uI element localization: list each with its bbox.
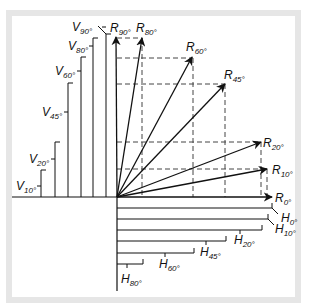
label-R45: R45° [224, 68, 246, 84]
v-component-V90 [102, 27, 111, 197]
label-V10: V10° [16, 179, 37, 195]
v-component-V20 [51, 142, 60, 197]
labels: R90°R80°R60°R45°R20°R10°R0°V10°V20°V45°V… [16, 20, 298, 288]
label-H20: H20° [234, 233, 256, 249]
label-V20: V20° [29, 152, 50, 168]
v-component-V80 [89, 38, 98, 197]
label-H80: H80° [121, 272, 143, 288]
h-component-H0 [117, 203, 278, 214]
label-R90: R90° [110, 21, 132, 37]
label-R0: R0° [275, 191, 292, 207]
label-V80: V80° [68, 39, 89, 55]
label-R10: R10° [272, 163, 294, 179]
arrow-R90 [116, 37, 117, 197]
label-V90: V90° [72, 20, 93, 36]
label-H60: H60° [159, 257, 181, 273]
h-component-H80 [117, 259, 143, 268]
label-R80: R80° [136, 21, 158, 37]
label-R20: R20° [263, 136, 285, 152]
h-component-H45 [117, 236, 226, 245]
label-H45: H45° [200, 245, 222, 261]
vector-diagram: R90°R80°R60°R45°R20°R10°R0°V10°V20°V45°V… [0, 0, 312, 308]
h-component-H10 [117, 214, 274, 225]
label-R60: R60° [186, 40, 208, 56]
axes [12, 197, 117, 291]
v-component-V45 [64, 83, 73, 197]
v-component-V60 [77, 57, 86, 197]
horizontal-components [117, 203, 278, 268]
h-component-H60 [117, 248, 194, 257]
label-V60: V60° [55, 64, 76, 80]
label-V45: V45° [42, 105, 63, 121]
v-component-V10 [37, 170, 46, 197]
resultant-vectors [116, 37, 272, 197]
